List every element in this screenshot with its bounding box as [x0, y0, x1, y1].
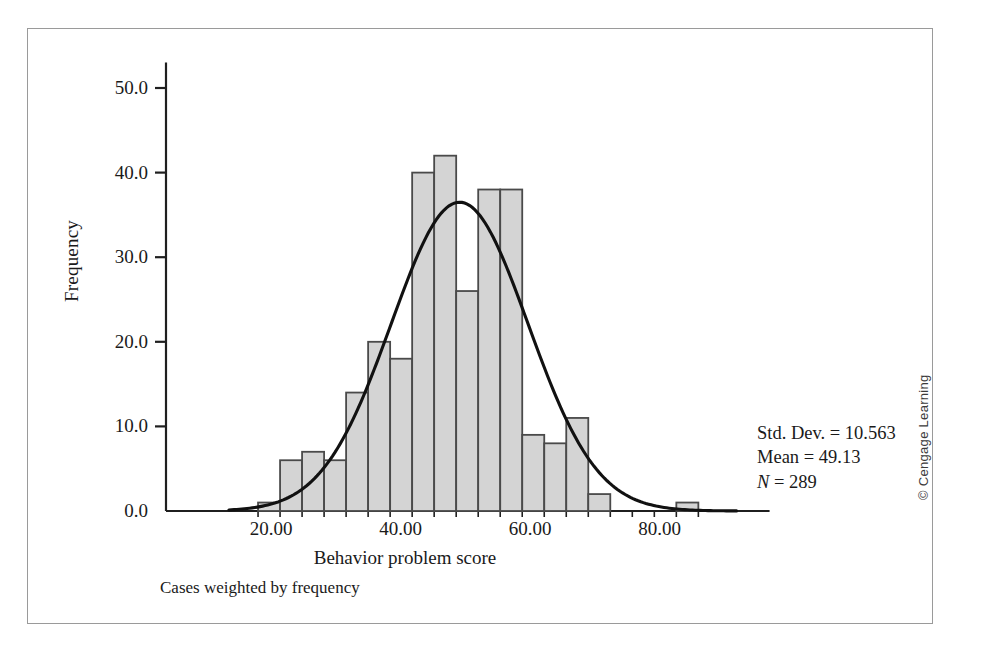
y-tick-label: 0.0	[84, 501, 148, 520]
std-dev-text: Std. Dev. = 10.563	[757, 421, 896, 445]
y-tick-label: 40.0	[84, 163, 148, 182]
statistics-annotation: Std. Dev. = 10.563 Mean = 49.13 N = 289	[757, 421, 896, 494]
n-value: = 289	[769, 472, 816, 492]
copyright-note: © Cengage Learning	[916, 340, 931, 500]
y-axis-tick-labels: 0.010.020.030.040.050.0	[84, 0, 148, 646]
x-tick-label: 40.00	[346, 519, 456, 538]
y-tick-label: 10.0	[84, 416, 148, 435]
y-tick-label: 30.0	[84, 247, 148, 266]
mean-text: Mean = 49.13	[757, 445, 896, 469]
x-axis-title: Behavior problem score	[180, 547, 630, 569]
x-tick-label: 20.00	[216, 519, 326, 538]
x-tick-label: 80.00	[605, 519, 715, 538]
y-tick-label: 50.0	[84, 78, 148, 97]
cases-weighted-note: Cases weighted by frequency	[160, 578, 360, 598]
x-tick-label: 60.00	[475, 519, 585, 538]
n-symbol: N	[757, 472, 769, 492]
n-text: N = 289	[757, 470, 896, 494]
y-tick-label: 20.0	[84, 332, 148, 351]
x-axis-tick-labels: 20.0040.0060.0080.00	[0, 519, 991, 549]
y-axis-title: Frequency	[61, 181, 83, 341]
